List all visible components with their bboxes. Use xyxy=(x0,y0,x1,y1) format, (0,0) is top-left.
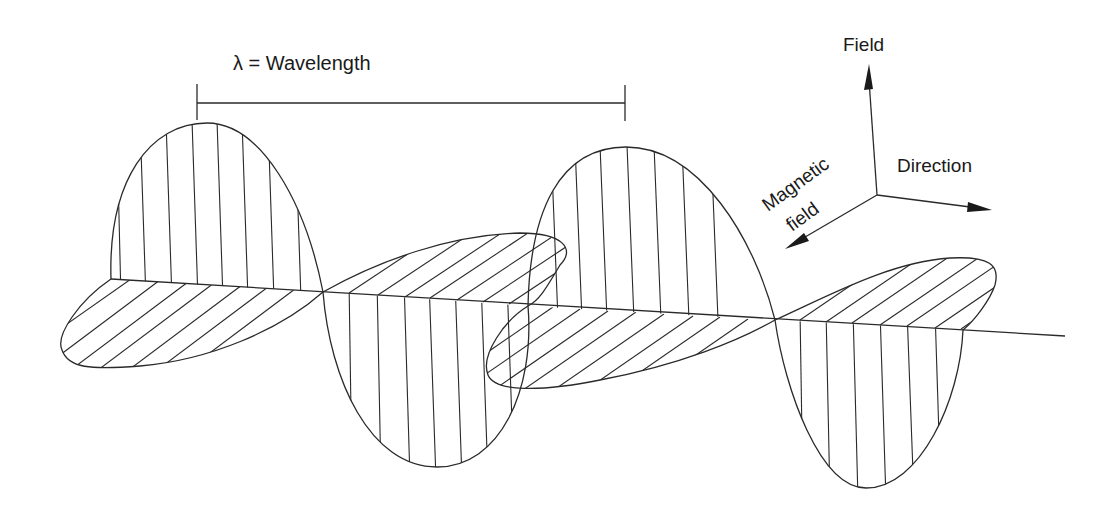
magnetic-lobe-1-hatch xyxy=(30,279,295,379)
direction-axis xyxy=(877,195,978,208)
field-axis xyxy=(869,80,877,195)
electric-lobe-4 xyxy=(775,320,963,488)
electric-lobe-3 xyxy=(528,147,775,320)
field-arrow-icon xyxy=(864,64,873,90)
electric-lobe-4-hatch xyxy=(773,310,941,500)
propagation-axis xyxy=(111,279,1065,336)
magnetic-label-line2: field xyxy=(782,198,823,235)
electric-lobe-1-hatch xyxy=(116,90,301,300)
magnetic-lobe-3 xyxy=(486,306,775,388)
direction-label: Direction xyxy=(897,155,972,176)
magnetic-lobe-3-hatch xyxy=(440,307,748,397)
magnetic-arrow-icon xyxy=(785,233,809,249)
magnetic-lobe-4-hatch xyxy=(800,245,1071,329)
magnetic-label-line1: Magnetic xyxy=(758,153,833,215)
wavelength-label: λ = Wavelength xyxy=(233,52,371,74)
magnetic-lobe-1 xyxy=(61,279,323,368)
em-wave-diagram: λ = Wavelength xyxy=(0,0,1116,523)
electric-lobe-2-hatch xyxy=(349,280,514,480)
electric-lobe-3-hatch xyxy=(550,120,718,320)
direction-arrow-icon xyxy=(967,202,992,212)
field-label: Field xyxy=(843,34,884,55)
wavelength-bar xyxy=(197,84,625,121)
electric-lobe-2 xyxy=(323,292,529,467)
